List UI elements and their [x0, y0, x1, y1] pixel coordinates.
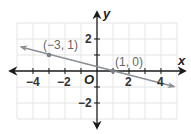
- x-tick-label: −4: [26, 75, 40, 89]
- point-label-1-0: (1, 0): [115, 55, 143, 69]
- origin-label: O: [84, 72, 94, 87]
- point-1-0: [111, 69, 116, 74]
- point-label-neg3-1: (−3, 1): [43, 38, 78, 52]
- x-axis-label: x: [177, 53, 186, 68]
- point-neg3-1: [47, 53, 52, 58]
- y-axis-label: y: [102, 6, 111, 21]
- coordinate-plane: (−3, 1) (1, 0) −4 −2 2 4 2 −2 O x y: [0, 0, 191, 134]
- x-tick-label: 4: [157, 75, 164, 89]
- y-tick-label: −2: [78, 96, 92, 110]
- x-tick-label: −2: [57, 75, 71, 89]
- y-tick-label: 2: [85, 32, 92, 46]
- x-tick-label: 2: [125, 75, 132, 89]
